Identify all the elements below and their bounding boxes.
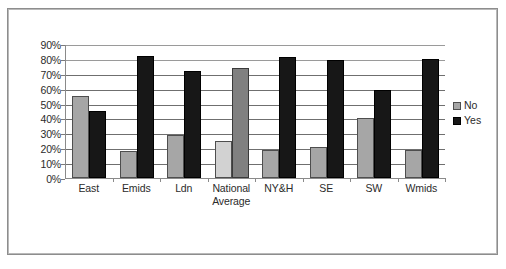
y-axis-tick-label: 90% — [15, 40, 61, 50]
bar-yes — [137, 56, 154, 178]
bar-yes — [374, 90, 391, 178]
legend-label: No — [464, 100, 477, 111]
bar-no — [167, 135, 184, 178]
bar-no — [72, 96, 89, 178]
legend-swatch-no-icon — [453, 102, 461, 110]
legend-item-no[interactable]: No — [453, 98, 495, 113]
y-axis: 90%80%70%60%50%40%30%20%10%0% — [9, 45, 61, 179]
y-axis-tick-label: 10% — [15, 159, 61, 169]
chart-frame: 90%80%70%60%50%40%30%20%10%0% EastEmidsL… — [8, 9, 497, 254]
plot-area — [65, 45, 445, 179]
bar-yes — [422, 59, 439, 178]
bar-group — [114, 45, 162, 178]
x-axis-tick-label-line: Average — [202, 195, 262, 208]
bar-no — [262, 150, 279, 178]
legend-label: Yes — [464, 115, 481, 126]
x-axis-tick-label-line: Wmids — [392, 182, 452, 195]
y-axis-tick-label: 60% — [15, 85, 61, 95]
y-axis-tick-label: 40% — [15, 114, 61, 124]
y-axis-tick-label: 30% — [15, 129, 61, 139]
bar-no — [405, 150, 422, 178]
bar-yes — [327, 60, 344, 178]
bar-group — [399, 45, 447, 178]
bar-group — [256, 45, 304, 178]
bar-no — [357, 118, 374, 178]
bar-yes — [89, 111, 106, 178]
bar-group — [304, 45, 352, 178]
legend-swatch-yes-icon — [453, 117, 461, 125]
bar-no — [215, 141, 232, 178]
y-axis-tick-label: 50% — [15, 100, 61, 110]
y-axis-tick-label: 0% — [15, 174, 61, 184]
bar-yes — [279, 57, 296, 178]
y-axis-tick-label: 20% — [15, 144, 61, 154]
bar-no — [120, 151, 137, 178]
bar-no — [310, 147, 327, 178]
chart-legend: NoYes — [453, 98, 495, 128]
bar-yes — [184, 71, 201, 178]
y-axis-tick-mark — [61, 179, 65, 180]
legend-item-yes[interactable]: Yes — [453, 113, 495, 128]
bar-group — [161, 45, 209, 178]
y-axis-tick-label: 80% — [15, 55, 61, 65]
bar-yes — [232, 68, 249, 178]
x-axis: EastEmidsLdnNationalAverageNY&HSESWWmids — [65, 182, 445, 222]
y-axis-tick-label: 70% — [15, 70, 61, 80]
bar-group — [209, 45, 257, 178]
bar-group — [351, 45, 399, 178]
x-axis-tick-label: Wmids — [392, 182, 452, 195]
bar-group — [66, 45, 114, 178]
